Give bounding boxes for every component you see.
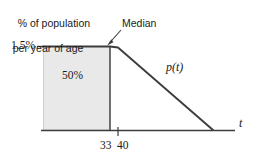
median-label: Median <box>122 17 156 29</box>
x-tick-label-33: 33 <box>100 139 112 153</box>
probability-density-figure: % of population per year of age 1.5% 50%… <box>0 0 257 164</box>
x-tick-label-40: 40 <box>117 139 129 153</box>
curve-label-pt: p(t) <box>166 60 183 74</box>
x-axis-label-t: t <box>239 116 242 130</box>
y-axis-title-line-1: % of population <box>18 17 90 29</box>
area-label-50-percent: 50% <box>62 69 83 83</box>
y-tick-label-1-5-percent: 1.5% <box>11 39 35 53</box>
